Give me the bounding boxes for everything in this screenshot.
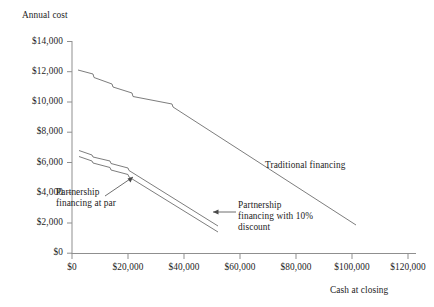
x-tick-label: $100,000 bbox=[334, 262, 370, 274]
series-label-partnership-discount-line1: Partnership bbox=[238, 200, 281, 212]
series-partnership-at-par bbox=[79, 151, 218, 227]
series-label-partnership-at-par-line2: financing at par bbox=[56, 198, 116, 210]
x-tick-label: $80,000 bbox=[281, 262, 312, 274]
y-tick-label: $10,000 bbox=[14, 96, 63, 108]
x-tick-label: $60,000 bbox=[225, 262, 256, 274]
series-traditional-financing bbox=[78, 70, 356, 225]
y-axis-ticks bbox=[67, 42, 72, 254]
x-tick-label: $20,000 bbox=[113, 262, 144, 274]
annotation-arrow-par bbox=[105, 177, 133, 196]
series-partnership-10-discount bbox=[79, 157, 218, 233]
annotation-arrow-discount bbox=[213, 210, 236, 215]
series-label-traditional-financing: Traditional financing bbox=[265, 160, 346, 172]
y-tick-label: $6,000 bbox=[14, 157, 63, 169]
x-axis-ticks bbox=[72, 254, 408, 260]
x-tick-label: $0 bbox=[67, 262, 77, 274]
series-label-partnership-at-par-line1: Partnership bbox=[56, 187, 99, 199]
y-tick-label: $8,000 bbox=[14, 126, 63, 138]
y-tick-label: $14,000 bbox=[14, 36, 63, 48]
y-tick-label: $12,000 bbox=[14, 66, 63, 78]
y-axis-title: Annual cost bbox=[22, 10, 68, 22]
series-label-partnership-discount-line3: discount bbox=[238, 222, 270, 234]
y-tick-label: $2,000 bbox=[14, 217, 63, 229]
chart-figure: Annual cost Cash at closing $14,000 $12,… bbox=[0, 0, 434, 307]
series-label-partnership-discount-line2: financing with 10% bbox=[238, 211, 313, 223]
x-tick-label: $40,000 bbox=[169, 262, 200, 274]
x-axis-title: Cash at closing bbox=[330, 285, 388, 297]
chart-plot-area bbox=[0, 0, 434, 307]
y-tick-label: $0 bbox=[14, 247, 63, 259]
x-tick-label: $120,000 bbox=[390, 262, 426, 274]
